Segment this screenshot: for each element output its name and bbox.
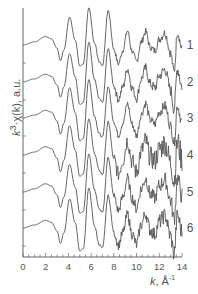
x-tick-label: 2 xyxy=(43,261,48,272)
series-2-label: 2 xyxy=(187,75,194,89)
series-labels: 123456 xyxy=(187,38,194,235)
exafs-chart: 02468101214 123456 xyxy=(0,0,198,294)
x-tick-label: 12 xyxy=(154,261,165,272)
x-tick-label: 14 xyxy=(177,261,188,272)
series-3-line xyxy=(23,80,182,146)
series-1-line xyxy=(23,8,182,72)
x-tick-label: 0 xyxy=(20,261,25,272)
x-axis-title: k, Å-1 xyxy=(150,274,175,287)
series-5-line xyxy=(23,154,182,225)
x-tick-label: 6 xyxy=(88,261,93,272)
axes: 02468101214 xyxy=(20,8,187,272)
series-4-line xyxy=(23,119,182,187)
series-6-line xyxy=(23,188,182,259)
series-6-label: 6 xyxy=(187,221,194,235)
x-tick-label: 8 xyxy=(111,261,116,272)
series-3-label: 3 xyxy=(187,111,194,125)
series-4-label: 4 xyxy=(187,148,194,162)
series-2-line xyxy=(23,42,182,113)
series-1-label: 1 xyxy=(187,38,194,52)
curves xyxy=(23,8,182,259)
y-axis-label: k3·χ(k), a.u. xyxy=(8,52,23,162)
x-tick-label: 4 xyxy=(66,261,71,272)
series-5-label: 5 xyxy=(187,185,194,199)
x-tick-label: 10 xyxy=(131,261,142,272)
